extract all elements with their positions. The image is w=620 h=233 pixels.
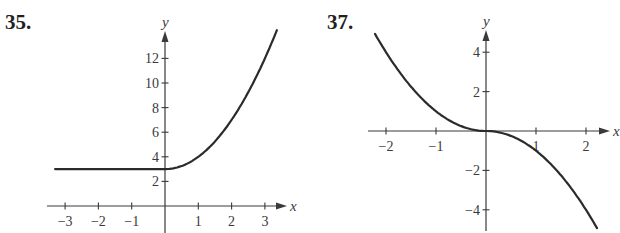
x-tick-label: −2	[379, 139, 394, 154]
chart-35: xy−3−2−112324681012	[47, 14, 297, 233]
y-axis-arrow-icon	[162, 31, 169, 42]
x-tick-label: 2	[583, 139, 590, 154]
y-tick-label: −4	[465, 203, 480, 218]
y-tick-label: 12	[145, 51, 159, 66]
x-tick-label: −2	[91, 214, 106, 229]
y-tick-label: 4	[473, 45, 480, 60]
y-tick-label: 2	[473, 85, 480, 100]
x-tick-label: 1	[195, 214, 202, 229]
x-tick-label: −1	[429, 139, 444, 154]
x-tick-label: −1	[124, 214, 139, 229]
y-axis-label: y	[481, 13, 490, 29]
x-tick-label: −3	[58, 214, 73, 229]
y-tick-label: −2	[465, 163, 480, 178]
y-axis-label: y	[160, 14, 169, 30]
x-axis-label: x	[289, 198, 297, 214]
y-tick-label: 6	[152, 125, 159, 140]
x-axis-arrow-icon	[276, 203, 287, 210]
function-curve	[55, 30, 277, 169]
plots-canvas: xy−3−2−112324681012 xy−2−112−4−224	[0, 0, 620, 233]
x-axis-label: x	[612, 123, 620, 139]
y-axis-arrow-icon	[483, 30, 490, 41]
y-tick-label: 8	[152, 101, 159, 116]
chart-37: xy−2−112−4−224	[368, 13, 620, 231]
y-tick-label: 4	[152, 150, 159, 165]
y-tick-label: 10	[145, 76, 159, 91]
y-tick-label: 2	[152, 174, 159, 189]
x-tick-label: 3	[261, 214, 268, 229]
x-axis-arrow-icon	[599, 128, 610, 135]
x-tick-label: 2	[228, 214, 235, 229]
